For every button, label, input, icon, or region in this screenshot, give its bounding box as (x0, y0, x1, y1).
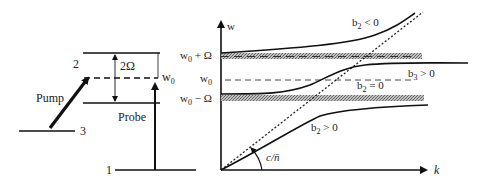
y-axis-label: w (227, 20, 235, 32)
splitting-label: 2Ω (120, 59, 135, 73)
curve-b2-negative (221, 13, 415, 53)
label-b2-negative: b2 < 0 (352, 16, 379, 31)
x-axis-label: k (434, 163, 440, 177)
dispersion-plot: w k w0 + Ω w0 w0 − Ω b2 < 0 b3 > 0 b2 = … (180, 12, 468, 177)
level-3-label: 3 (80, 124, 86, 138)
band-lower (221, 95, 424, 101)
y-tick-w0-minus-omega: w0 − Ω (180, 92, 212, 107)
energy-level-diagram: 2Ω 2 w0 3 Pump 1 Probe (19, 53, 196, 177)
angle-label: c/n̄ (266, 151, 280, 163)
level-1-label: 1 (106, 163, 112, 177)
probe-label: Probe (118, 110, 146, 124)
label-b3-positive: b3 > 0 (408, 67, 435, 82)
w0-label: w0 (162, 70, 175, 86)
level-2-label: 2 (73, 57, 79, 71)
light-line-dotted (221, 12, 423, 170)
y-tick-w0-plus-omega: w0 + Ω (180, 49, 212, 64)
figure-canvas: 2Ω 2 w0 3 Pump 1 Probe w k w0 + Ω w0 w0 … (0, 0, 484, 184)
pump-label: Pump (36, 91, 64, 105)
curve-b2-positive (221, 105, 428, 170)
label-b2-zero: b2 = 0 (357, 79, 384, 94)
label-b2-positive: b2 > 0 (311, 121, 338, 136)
y-tick-w0: w0 (200, 72, 212, 87)
